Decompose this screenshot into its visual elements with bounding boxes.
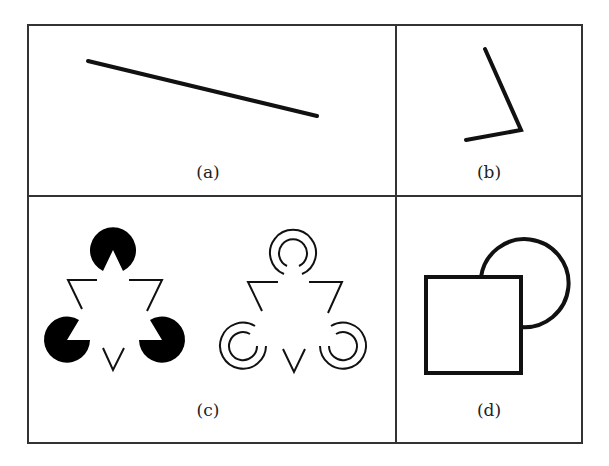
pacman-bottom-left bbox=[44, 317, 90, 363]
arcs-top-inner bbox=[279, 239, 307, 266]
panel-a-label: (a) bbox=[196, 162, 219, 182]
panel-c: (c) bbox=[44, 227, 366, 420]
panel-a: (a) bbox=[88, 61, 317, 182]
panel-b-label: (b) bbox=[477, 162, 501, 182]
arcs-bottom-right-outer bbox=[320, 323, 366, 369]
panel-d: (d) bbox=[426, 239, 569, 420]
outline-corner-bottom bbox=[103, 348, 124, 370]
angle-line-segments bbox=[466, 49, 521, 140]
arcs-bottom-left-outer bbox=[220, 323, 266, 369]
occluded-circle bbox=[481, 239, 569, 327]
figure: (a) (b) bbox=[0, 0, 609, 466]
kanizsa-pacman-triangle bbox=[44, 227, 185, 370]
pacman-top bbox=[90, 227, 136, 271]
outline-corner-bottom bbox=[283, 349, 305, 372]
outline-corner-right bbox=[309, 282, 342, 313]
panel-b: (b) bbox=[466, 49, 521, 182]
kanizsa-arc-triangle bbox=[220, 230, 366, 372]
outline-corner-right bbox=[129, 280, 162, 311]
straight-line-segment bbox=[88, 61, 317, 116]
arcs-bottom-left-inner bbox=[229, 332, 257, 360]
outline-corner-left bbox=[68, 280, 97, 309]
arcs-bottom-right-inner bbox=[329, 332, 357, 360]
outline-corner-left bbox=[248, 282, 278, 311]
arcs-top-outer bbox=[270, 230, 316, 274]
panel-c-label: (c) bbox=[197, 400, 220, 420]
occluding-square bbox=[426, 277, 521, 373]
pacman-bottom-right bbox=[139, 317, 185, 363]
panel-d-label: (d) bbox=[477, 400, 501, 420]
